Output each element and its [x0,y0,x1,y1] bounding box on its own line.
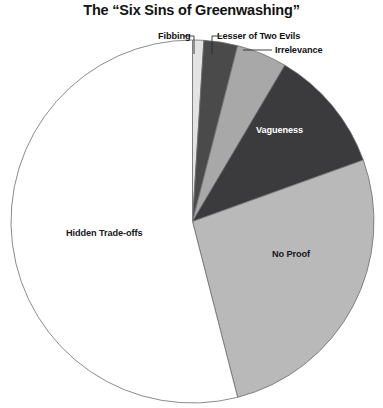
slice-label-fibbing: Fibbing [158,31,190,41]
pie-chart-figure: The “Six Sins of Greenwashing” Fibbing L… [0,0,383,408]
slice-label-no-proof: No Proof [272,249,310,259]
pie-chart-svg [0,0,383,408]
slice-label-lesser-of-two-evils: Lesser of Two Evils [217,31,300,41]
slice-label-irrelevance: Irrelevance [275,45,322,55]
pie-slice-group [11,40,374,403]
slice-label-hidden-tradeoffs: Hidden Trade-offs [66,228,142,238]
slice-label-vagueness: Vagueness [256,125,303,135]
